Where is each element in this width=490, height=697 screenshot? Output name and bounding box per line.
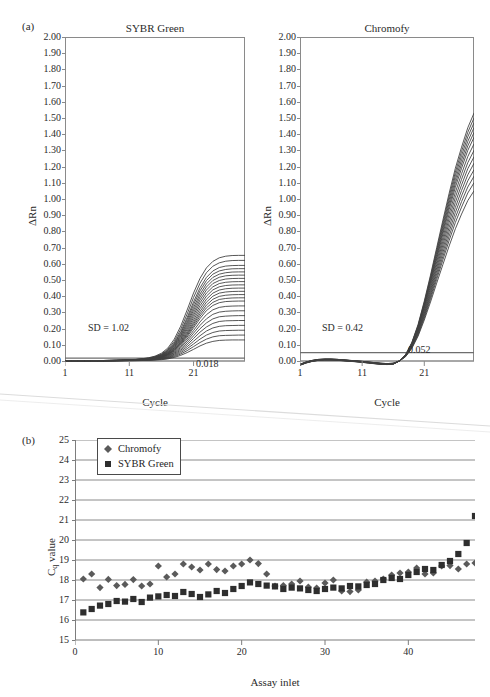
y-tick-0.40: 0.40 bbox=[267, 290, 296, 301]
y-axis-label-cq-tail: value bbox=[45, 538, 57, 565]
square-marker-icon bbox=[102, 459, 114, 469]
y-tick-2.00: 2.00 bbox=[32, 31, 61, 42]
y-tick-1.60: 1.60 bbox=[32, 96, 61, 107]
y-tick-0.50: 0.50 bbox=[267, 274, 296, 285]
y-tick-0.60: 0.60 bbox=[267, 258, 296, 269]
panel-b-label: (b) bbox=[22, 434, 35, 446]
sd-annotation-chromofy: SD = 0.42 bbox=[322, 322, 363, 333]
y-tick-1.30: 1.30 bbox=[267, 144, 296, 155]
legend-item-sybr-green: SYBR Green bbox=[102, 456, 174, 471]
y-tick-24: 24 bbox=[47, 454, 69, 465]
y-tick-1.70: 1.70 bbox=[32, 80, 61, 91]
y-axis-label-sybr-green: ΔRn bbox=[26, 196, 38, 236]
y-tick-1.20: 1.20 bbox=[267, 161, 296, 172]
y-tick-1.70: 1.70 bbox=[267, 80, 296, 91]
y-tick-22: 22 bbox=[47, 494, 69, 505]
y-tick-1.90: 1.90 bbox=[267, 47, 296, 58]
legend-label: Chromofy bbox=[118, 443, 161, 454]
y-tick-1.80: 1.80 bbox=[267, 63, 296, 74]
y-tick-0.70: 0.70 bbox=[267, 242, 296, 253]
legend-item-chromofy: Chromofy bbox=[102, 441, 174, 456]
y-tick-0.20: 0.20 bbox=[32, 323, 61, 334]
y-tick-0.60: 0.60 bbox=[32, 258, 61, 269]
y-tick-17: 17 bbox=[47, 594, 69, 605]
y-tick-1.40: 1.40 bbox=[267, 128, 296, 139]
chart-title-chromofy: Chromofy bbox=[300, 22, 474, 34]
sd-annotation-sybr-green: SD = 1.02 bbox=[88, 322, 129, 333]
y-tick-0.50: 0.50 bbox=[32, 274, 61, 285]
y-axis-label-cq-value: Cq value bbox=[45, 529, 59, 585]
y-tick-0.30: 0.30 bbox=[267, 306, 296, 317]
x-axis-label-chromofy: Cycle bbox=[300, 396, 474, 408]
chart-legend: ChromofySYBR Green bbox=[97, 438, 181, 475]
diamond-marker-icon bbox=[102, 444, 114, 454]
y-tick-21: 21 bbox=[47, 514, 69, 525]
y-tick-0.20: 0.20 bbox=[267, 323, 296, 334]
y-tick-0.10: 0.10 bbox=[32, 339, 61, 350]
y-tick-0.30: 0.30 bbox=[32, 306, 61, 317]
y-tick-1.40: 1.40 bbox=[32, 128, 61, 139]
threshold-annotation-sybr-green: 0.018 bbox=[196, 358, 219, 369]
figure-root: (a) SYBR Green 2.001.901.801.701.601.501… bbox=[0, 0, 490, 697]
y-tick-1.50: 1.50 bbox=[32, 112, 61, 123]
y-axis-label-cq-main: C bbox=[45, 569, 57, 576]
y-tick-0.40: 0.40 bbox=[32, 290, 61, 301]
y-tick-25: 25 bbox=[47, 434, 69, 445]
y-tick-0.00: 0.00 bbox=[32, 355, 61, 366]
y-tick-1.10: 1.10 bbox=[32, 177, 61, 188]
y-tick-16: 16 bbox=[47, 614, 69, 625]
chart-title-sybr-green: SYBR Green bbox=[65, 22, 245, 34]
legend-label: SYBR Green bbox=[118, 458, 174, 469]
x-axis-label-assay-inlet: Assay inlet bbox=[75, 676, 475, 688]
y-tick-1.60: 1.60 bbox=[267, 96, 296, 107]
y-tick-2.00: 2.00 bbox=[267, 31, 296, 42]
y-tick-1.90: 1.90 bbox=[32, 47, 61, 58]
y-tick-0.10: 0.10 bbox=[267, 339, 296, 350]
y-axis-label-chromofy: ΔRn bbox=[261, 196, 273, 236]
y-tick-1.10: 1.10 bbox=[267, 177, 296, 188]
y-tick-15: 15 bbox=[47, 634, 69, 645]
y-axis-label-cq-sub: q bbox=[50, 565, 59, 569]
y-tick-1.20: 1.20 bbox=[32, 161, 61, 172]
y-tick-0.00: 0.00 bbox=[267, 355, 296, 366]
threshold-annotation-chromofy: 0.052 bbox=[408, 344, 431, 355]
y-tick-23: 23 bbox=[47, 474, 69, 485]
y-tick-1.50: 1.50 bbox=[267, 112, 296, 123]
y-tick-1.30: 1.30 bbox=[32, 144, 61, 155]
y-tick-1.80: 1.80 bbox=[32, 63, 61, 74]
x-axis-label-sybr-green: Cycle bbox=[65, 396, 245, 408]
y-tick-0.70: 0.70 bbox=[32, 242, 61, 253]
